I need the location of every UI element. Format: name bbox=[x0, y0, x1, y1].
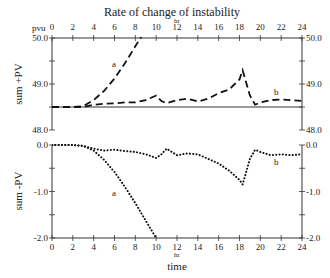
x-tick-label-bottom: 2 bbox=[71, 242, 76, 252]
y-tick-label: 50.0 bbox=[32, 33, 48, 43]
x-tick-label-top: 10 bbox=[152, 22, 162, 32]
rate-of-change-chart: Rate of change of instability hr pvu 48.… bbox=[0, 0, 330, 278]
x-tick-label-top: 14 bbox=[193, 22, 203, 32]
x-tick-label-top: 22 bbox=[277, 22, 286, 32]
x-tick-label-bottom: 20 bbox=[256, 242, 266, 252]
x-tick-label-bottom: 4 bbox=[91, 242, 96, 252]
x-tick-label-top: 20 bbox=[256, 22, 266, 32]
y-tick-label: -1.0 bbox=[34, 187, 49, 197]
bottom-curve-b-label: b bbox=[274, 157, 279, 167]
y-tick-label: -2.0 bbox=[34, 233, 49, 243]
series-b-line bbox=[52, 145, 302, 185]
y-tick-label: 49.0 bbox=[32, 79, 48, 89]
bottom-hr-label: hr bbox=[174, 251, 181, 259]
x-tick-label-bottom: 22 bbox=[277, 242, 286, 252]
series-a-line bbox=[52, 145, 156, 238]
x-tick-label-bottom: 24 bbox=[298, 242, 308, 252]
x-tick-label-bottom: 18 bbox=[235, 242, 245, 252]
y-tick-label-right: -2.0 bbox=[306, 233, 321, 243]
x-tick-label-top: 0 bbox=[50, 22, 55, 32]
x-tick-label-top: 12 bbox=[173, 22, 182, 32]
y-tick-label-right: -1.0 bbox=[306, 187, 321, 197]
series-b-line bbox=[52, 70, 302, 107]
y-tick-label: 0.0 bbox=[37, 140, 49, 150]
x-tick-label-bottom: 10 bbox=[152, 242, 162, 252]
x-tick-label-bottom: 0 bbox=[50, 242, 55, 252]
x-tick-label-top: 2 bbox=[71, 22, 76, 32]
bottom-y-axis-label: sum -PV bbox=[12, 172, 24, 211]
y-tick-label-right: 50.0 bbox=[306, 33, 322, 43]
x-tick-label-bottom: 16 bbox=[214, 242, 224, 252]
x-tick-label-top: 16 bbox=[214, 22, 224, 32]
top-y-axis-label: sum +PV bbox=[12, 63, 24, 104]
x-tick-label-bottom: 8 bbox=[133, 242, 138, 252]
series-a-line bbox=[52, 29, 146, 107]
top-curve-b-label: b bbox=[274, 87, 279, 97]
y-tick-label: 48.0 bbox=[32, 125, 48, 135]
x-tick-label-bottom: 14 bbox=[193, 242, 203, 252]
y-tick-label-right: 49.0 bbox=[306, 79, 322, 89]
x-tick-label-bottom: 6 bbox=[112, 242, 117, 252]
x-tick-label-top: 24 bbox=[298, 22, 308, 32]
y-tick-label-right: 48.0 bbox=[306, 125, 322, 135]
top-curve-a-label: a bbox=[112, 59, 116, 69]
chart-title: Rate of change of instability bbox=[104, 5, 240, 19]
y-tick-label-right: 0.0 bbox=[306, 140, 318, 150]
x-tick-label-top: 6 bbox=[112, 22, 117, 32]
top-panel: 48.048.049.049.050.050.00246810121416182… bbox=[32, 22, 322, 135]
x-axis-label: time bbox=[167, 260, 187, 272]
x-tick-label-top: 18 bbox=[235, 22, 245, 32]
pvu-unit-label: pvu bbox=[32, 23, 46, 33]
x-tick-label-top: 8 bbox=[133, 22, 138, 32]
x-tick-label-top: 4 bbox=[91, 22, 96, 32]
bottom-curve-a-label: a bbox=[112, 188, 116, 198]
